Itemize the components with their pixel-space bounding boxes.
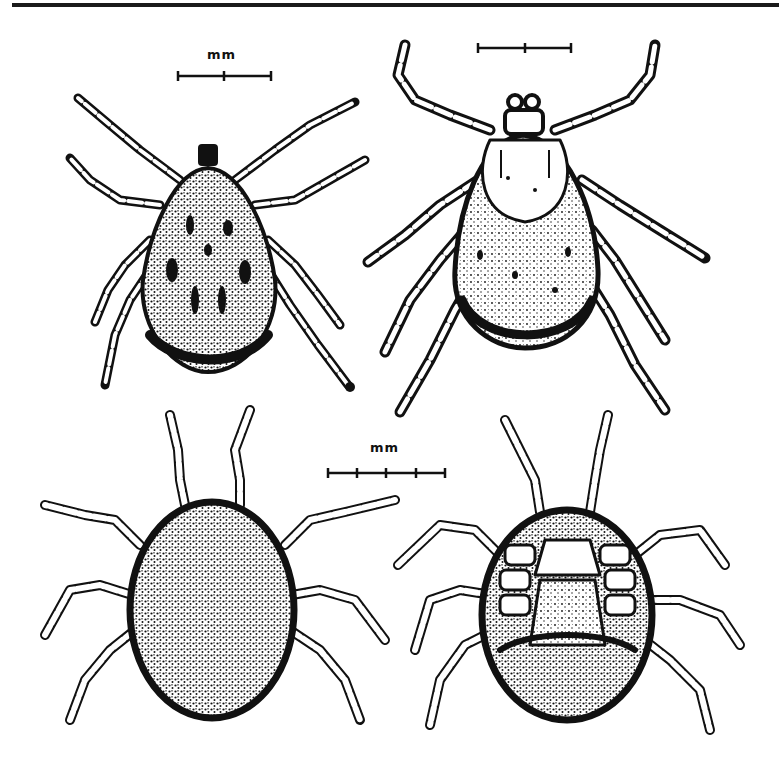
scale-bar-bottom	[328, 468, 445, 478]
illustration-canvas	[0, 0, 779, 771]
scale-bar-top-left	[178, 71, 271, 81]
tick-top-right-dorsal	[368, 45, 705, 412]
tick-bottom-right-ventral	[398, 415, 740, 730]
scale-bar-top-right	[478, 43, 571, 53]
figure-plate: mm mm	[0, 0, 779, 771]
tick-bottom-left-dorsal	[45, 410, 395, 720]
tick-top-left-dorsal	[70, 98, 365, 392]
